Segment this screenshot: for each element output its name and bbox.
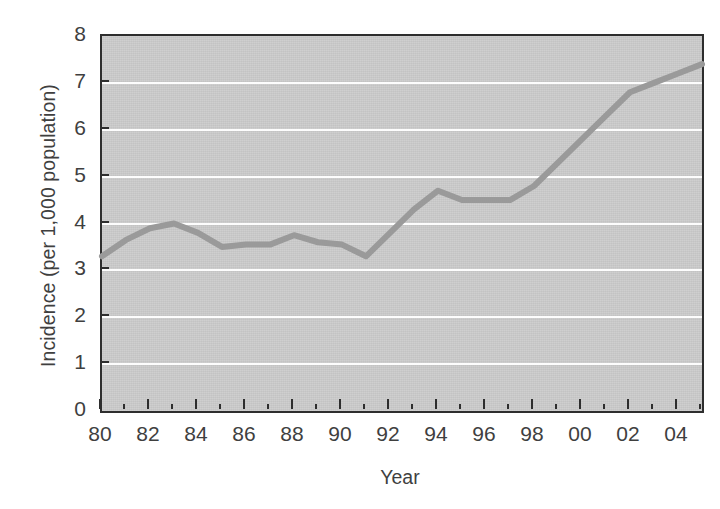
x-tick-mark-minor	[603, 404, 605, 409]
y-tick-label: 0	[52, 398, 86, 419]
x-tick-mark-major	[675, 399, 677, 409]
y-tick-label: 1	[52, 351, 86, 372]
plot-area	[100, 34, 704, 413]
x-tick-label: 92	[363, 423, 413, 444]
x-tick-label: 00	[555, 423, 605, 444]
x-tick-mark-minor	[219, 404, 221, 409]
x-tick-mark-major	[627, 399, 629, 409]
x-tick-label: 90	[315, 423, 365, 444]
x-tick-label: 84	[171, 423, 221, 444]
x-tick-mark-major	[291, 399, 293, 409]
x-tick-label: 04	[651, 423, 701, 444]
x-axis-title: Year	[100, 466, 700, 489]
x-tick-mark-minor	[363, 404, 365, 409]
x-tick-label: 88	[267, 423, 317, 444]
x-tick-label: 80	[75, 423, 125, 444]
x-tick-label: 98	[507, 423, 557, 444]
x-tick-mark-major	[147, 399, 149, 409]
y-tick-label: 2	[52, 304, 86, 325]
x-tick-mark-minor	[171, 404, 173, 409]
x-tick-mark-minor	[315, 404, 317, 409]
x-tick-mark-minor	[699, 404, 701, 409]
x-tick-mark-major	[579, 399, 581, 409]
y-tick-label: 6	[52, 117, 86, 138]
x-tick-label: 86	[219, 423, 269, 444]
x-tick-mark-major	[339, 399, 341, 409]
x-tick-label: 96	[459, 423, 509, 444]
y-tick-mark	[102, 80, 109, 82]
x-tick-mark-minor	[459, 404, 461, 409]
data-series-svg	[102, 36, 702, 411]
x-tick-label: 82	[123, 423, 173, 444]
y-tick-mark	[102, 174, 109, 176]
incidence-line	[102, 64, 702, 256]
x-tick-label: 94	[411, 423, 461, 444]
y-tick-label: 7	[52, 70, 86, 91]
x-tick-mark-minor	[123, 404, 125, 409]
x-tick-mark-major	[195, 399, 197, 409]
x-tick-mark-major	[483, 399, 485, 409]
x-tick-label: 02	[603, 423, 653, 444]
x-tick-mark-minor	[411, 404, 413, 409]
x-tick-mark-major	[531, 399, 533, 409]
y-tick-label: 3	[52, 257, 86, 278]
y-tick-mark	[102, 314, 109, 316]
y-tick-label: 5	[52, 164, 86, 185]
y-tick-mark	[102, 221, 109, 223]
y-tick-mark	[102, 361, 109, 363]
x-tick-mark-major	[387, 399, 389, 409]
x-tick-mark-major	[243, 399, 245, 409]
x-tick-mark-minor	[507, 404, 509, 409]
y-tick-mark	[102, 267, 109, 269]
x-tick-mark-minor	[651, 404, 653, 409]
y-tick-label: 4	[52, 211, 86, 232]
x-tick-mark-minor	[267, 404, 269, 409]
y-tick-mark	[102, 127, 109, 129]
x-tick-mark-major	[99, 399, 101, 409]
chart-figure: Incidence (per 1,000 population) 0123456…	[0, 0, 720, 509]
y-tick-label: 8	[52, 23, 86, 44]
x-tick-mark-major	[435, 399, 437, 409]
x-tick-mark-minor	[555, 404, 557, 409]
